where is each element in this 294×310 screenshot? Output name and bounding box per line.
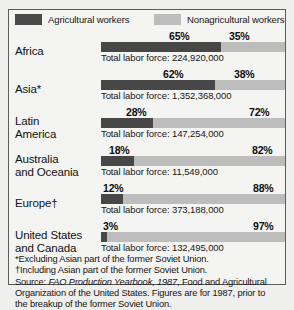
- region-label-united-states-canada: United States and Canada: [15, 229, 82, 254]
- pct-agricultural-europe: 12%: [103, 182, 123, 194]
- chart-legend: Agricultural workers Nonagricultural wor…: [9, 13, 285, 30]
- footnote-dagger: †Including Asian part of the former Sovi…: [15, 265, 279, 276]
- total-labor-force-asia: Total labor force: 1,352,368,000: [101, 90, 285, 102]
- region-label-asia: Asia*: [15, 83, 41, 96]
- pct-line-europe: 12% 88%: [101, 182, 285, 194]
- legend-label-nonagricultural: Nonagricultural workers: [187, 14, 285, 25]
- pct-agricultural-united-states-canada: 3%: [103, 220, 118, 232]
- pct-agricultural-australia-oceania: 18%: [109, 144, 129, 156]
- total-labor-force-united-states-canada: Total labor force: 132,495,000: [101, 242, 285, 254]
- pct-line-australia-oceania: 18% 82%: [101, 144, 285, 156]
- pct-nonagricultural-australia-oceania: 82%: [252, 144, 272, 156]
- pct-line-africa: 65% 35%: [101, 30, 285, 42]
- bar-fill-agricultural-latin-america: [101, 118, 153, 128]
- legend-entry-nonagricultural: Nonagricultural workers: [154, 14, 285, 25]
- labor-force-chart: Agricultural workers Nonagricultural wor…: [8, 9, 286, 285]
- pct-agricultural-africa: 65%: [169, 30, 189, 42]
- chart-row-asia: Asia* 62% 38% Total labor force: 1,352,3…: [9, 68, 285, 106]
- bar-latin-america: [101, 118, 285, 128]
- bar-fill-agricultural-australia-oceania: [101, 156, 134, 166]
- light-swatch-icon: [154, 14, 181, 25]
- source-prefix: Source:: [15, 277, 48, 287]
- region-label-latin-america: Latin America: [15, 115, 56, 140]
- pct-nonagricultural-latin-america: 72%: [249, 106, 269, 118]
- bar-asia: [101, 80, 285, 90]
- bar-fill-agricultural-asia: [101, 80, 215, 90]
- chart-row-australia-oceania: Australia and Oceania 18% 82% Total labo…: [9, 144, 285, 182]
- legend-entry-agricultural: Agricultural workers: [15, 14, 129, 25]
- total-labor-force-australia-oceania: Total labor force: 11,549,000: [101, 166, 285, 178]
- pct-agricultural-latin-america: 28%: [126, 106, 146, 118]
- total-labor-force-africa: Total labor force: 224,920,000: [101, 52, 285, 64]
- chart-row-latin-america: Latin America 28% 72% Total labor force:…: [9, 106, 285, 144]
- pct-nonagricultural-europe: 88%: [253, 182, 273, 194]
- pct-nonagricultural-asia: 38%: [234, 68, 254, 80]
- legend-label-agricultural: Agricultural workers: [48, 14, 129, 25]
- bar-fill-agricultural-united-states-canada: [101, 232, 107, 242]
- bar-fill-agricultural-africa: [101, 42, 221, 52]
- bar-fill-agricultural-europe: [101, 194, 123, 204]
- bar-united-states-canada: [101, 232, 285, 242]
- chart-footnotes: *Excluding Asian part of the former Sovi…: [15, 254, 279, 310]
- region-label-africa: Africa: [15, 45, 44, 58]
- pct-nonagricultural-africa: 35%: [229, 30, 249, 42]
- pct-line-united-states-canada: 3% 97%: [101, 220, 285, 232]
- chart-row-africa: Africa 65% 35% Total labor force: 224,92…: [9, 30, 285, 68]
- pct-nonagricultural-united-states-canada: 97%: [253, 220, 273, 232]
- pct-agricultural-asia: 62%: [163, 68, 183, 80]
- chart-row-united-states-canada: United States and Canada 3% 97% Total la…: [9, 220, 285, 250]
- total-labor-force-latin-america: Total labor force: 147,254,000: [101, 128, 285, 140]
- bar-australia-oceania: [101, 156, 285, 166]
- bar-africa: [101, 42, 285, 52]
- region-label-australia-oceania: Australia and Oceania: [15, 153, 79, 178]
- dark-swatch-icon: [15, 14, 42, 25]
- pct-line-asia: 62% 38%: [101, 68, 285, 80]
- pct-line-latin-america: 28% 72%: [101, 106, 285, 118]
- total-labor-force-europe: Total labor force: 373,188,000: [101, 204, 285, 216]
- region-label-europe: Europe†: [15, 197, 57, 210]
- bar-europe: [101, 194, 285, 204]
- footnote-asterisk: *Excluding Asian part of the former Sovi…: [15, 254, 279, 265]
- chart-row-europe: Europe† 12% 88% Total labor force: 373,1…: [9, 182, 285, 220]
- source-title: FAO Production Yearbook, 1987: [48, 277, 177, 287]
- footnote-source: Source: FAO Production Yearbook, 1987, F…: [15, 277, 279, 310]
